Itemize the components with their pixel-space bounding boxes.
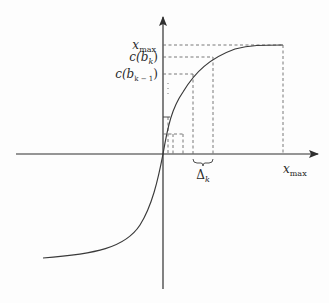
guide-lines (163, 45, 283, 154)
diagram-canvas: xmax c(bk) c(bk − 1) Δk xmax (0, 0, 329, 303)
compander-diagram: xmax c(bk) c(bk − 1) Δk xmax (0, 0, 329, 303)
label-delta-k: Δk (196, 168, 210, 184)
interval-brace (193, 159, 213, 166)
label-c-bk-1: c(bk − 1) (115, 67, 158, 83)
label-c-bk: c(bk) (129, 50, 158, 66)
label-xmax-x: xmax (283, 162, 307, 178)
